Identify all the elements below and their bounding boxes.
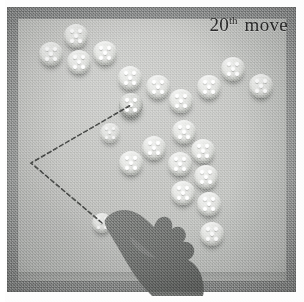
piece-dots bbox=[100, 123, 120, 143]
game-piece[interactable] bbox=[191, 139, 215, 163]
game-piece[interactable] bbox=[119, 151, 143, 175]
game-piece[interactable] bbox=[92, 213, 112, 233]
page-edge bbox=[0, 0, 5, 302]
piece-dots bbox=[221, 57, 245, 81]
piece-dots bbox=[119, 93, 143, 117]
piece-dots bbox=[39, 42, 63, 66]
game-piece[interactable] bbox=[146, 75, 170, 99]
game-piece[interactable] bbox=[169, 89, 193, 113]
game-piece[interactable] bbox=[64, 24, 88, 48]
game-piece[interactable] bbox=[100, 123, 120, 143]
game-piece[interactable] bbox=[197, 75, 221, 99]
game-piece[interactable] bbox=[197, 192, 221, 216]
piece-dots bbox=[171, 181, 195, 205]
piece-dots bbox=[249, 74, 273, 98]
game-piece[interactable] bbox=[171, 181, 195, 205]
move-number: 20 bbox=[209, 14, 229, 35]
piece-dots bbox=[118, 66, 142, 90]
piece-dots bbox=[93, 41, 117, 65]
move-ordinal-suffix: th bbox=[229, 14, 238, 26]
piece-dots bbox=[191, 139, 215, 163]
piece-dots bbox=[146, 75, 170, 99]
game-piece[interactable] bbox=[39, 42, 63, 66]
piece-dots bbox=[194, 165, 218, 189]
game-piece[interactable] bbox=[67, 50, 91, 74]
piece-dots bbox=[197, 75, 221, 99]
game-piece[interactable] bbox=[221, 57, 245, 81]
piece-dots bbox=[142, 136, 166, 160]
game-piece[interactable] bbox=[93, 41, 117, 65]
game-piece[interactable] bbox=[200, 222, 224, 246]
piece-dots bbox=[67, 50, 91, 74]
game-piece[interactable] bbox=[118, 66, 142, 90]
game-piece[interactable] bbox=[142, 136, 166, 160]
photograph: 20thmove bbox=[0, 0, 304, 302]
piece-dots bbox=[64, 24, 88, 48]
game-piece[interactable] bbox=[119, 93, 143, 117]
move-word: move bbox=[245, 14, 288, 35]
game-piece[interactable] bbox=[168, 152, 192, 176]
piece-dots bbox=[92, 213, 112, 233]
piece-dots bbox=[168, 152, 192, 176]
game-piece[interactable] bbox=[194, 165, 218, 189]
game-piece[interactable] bbox=[249, 74, 273, 98]
piece-dots bbox=[197, 192, 221, 216]
move-caption: 20thmove bbox=[209, 14, 288, 36]
piece-dots bbox=[169, 89, 193, 113]
piece-dots bbox=[200, 222, 224, 246]
piece-dots bbox=[119, 151, 143, 175]
